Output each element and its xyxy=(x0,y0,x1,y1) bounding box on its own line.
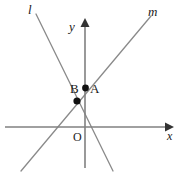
x-axis-label: x xyxy=(167,130,172,142)
point-label-a: A xyxy=(90,82,99,95)
graph-line-m xyxy=(21,16,151,171)
point-label-b: B xyxy=(70,82,79,95)
line-label-l: l xyxy=(28,3,32,16)
point-b-dot xyxy=(73,97,80,104)
origin-label: O xyxy=(73,131,82,143)
point-a-dot xyxy=(82,85,89,92)
line-label-m: m xyxy=(148,5,157,18)
y-axis-label: y xyxy=(69,20,75,33)
geometry-figure: l m y x A B O xyxy=(0,0,183,175)
y-axis-arrow xyxy=(81,18,90,27)
